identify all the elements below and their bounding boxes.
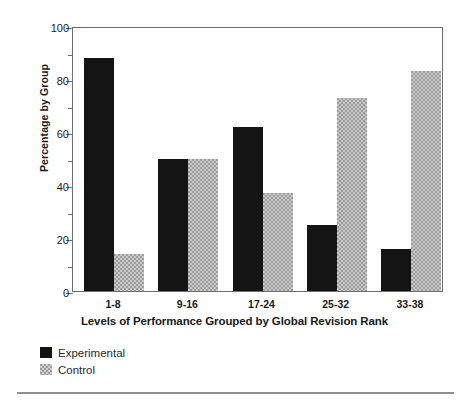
bar-control-33-38 xyxy=(411,71,441,291)
bar-experimental-1-8 xyxy=(84,58,114,291)
y-tick-label: 80 xyxy=(57,75,69,87)
bar-experimental-9-16 xyxy=(158,159,188,292)
bar-group-33-38 xyxy=(381,28,441,291)
y-tick-minor xyxy=(68,214,73,215)
y-tick-label: 60 xyxy=(57,128,69,140)
x-tick-label-25-32: 25-32 xyxy=(322,298,349,310)
bar-control-25-32 xyxy=(337,98,367,291)
y-tick-minor xyxy=(68,108,73,109)
bar-group-9-16 xyxy=(158,28,218,291)
y-tick-label: 20 xyxy=(57,234,69,246)
x-axis-title: Levels of Performance Grouped by Global … xyxy=(0,315,469,327)
bar-experimental-17-24 xyxy=(233,127,263,291)
bar-control-9-16 xyxy=(188,159,218,292)
bar-group-1-8 xyxy=(84,28,144,291)
bar-experimental-25-32 xyxy=(307,225,337,291)
bottom-divider xyxy=(17,392,454,394)
y-tick-minor xyxy=(68,161,73,162)
bar-chart-figure: Percentage by Group 020406080100 1-89-16… xyxy=(0,0,469,408)
chart-legend: Experimental Control xyxy=(40,344,125,378)
y-tick-label: 100 xyxy=(51,22,69,34)
legend-label: Experimental xyxy=(58,347,125,359)
bar-control-1-8 xyxy=(114,254,144,291)
x-tick-label-9-16: 9-16 xyxy=(177,298,198,310)
solid-black-swatch-icon xyxy=(40,347,52,358)
legend-label: Control xyxy=(58,364,95,376)
y-tick-minor xyxy=(68,267,73,268)
legend-item-control: Control xyxy=(40,361,125,378)
bar-group-25-32 xyxy=(307,28,367,291)
legend-item-experimental: Experimental xyxy=(40,344,125,361)
bars-container xyxy=(73,28,442,291)
plot-area: 020406080100 xyxy=(72,27,443,292)
x-tick-label-17-24: 17-24 xyxy=(248,298,275,310)
y-tick-label: 0 xyxy=(63,287,69,299)
dotted-gray-swatch-icon xyxy=(40,364,52,375)
y-axis-title: Percentage by Group xyxy=(38,28,50,208)
bar-group-17-24 xyxy=(233,28,293,291)
x-tick-label-33-38: 33-38 xyxy=(396,298,423,310)
x-tick-label-1-8: 1-8 xyxy=(106,298,121,310)
bar-control-17-24 xyxy=(263,193,293,291)
bar-experimental-33-38 xyxy=(381,249,411,291)
y-tick-label: 40 xyxy=(57,181,69,193)
y-tick-minor xyxy=(68,55,73,56)
